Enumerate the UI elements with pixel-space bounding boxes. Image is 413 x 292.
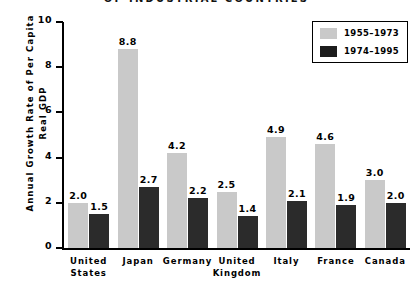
bar-value-label: 2.5 bbox=[217, 179, 235, 190]
bar-group: 2.01.5 bbox=[68, 22, 109, 248]
y-tick-6: 6 bbox=[56, 111, 63, 113]
legend-entry-1: 1974–1995 bbox=[320, 45, 399, 57]
x-category-label-line: States bbox=[58, 267, 119, 279]
bar: 2.5 bbox=[217, 192, 237, 249]
bar: 4.9 bbox=[266, 137, 286, 248]
y-tick-2: 2 bbox=[56, 202, 63, 204]
bar-value-label: 1.4 bbox=[238, 203, 256, 214]
legend-swatch-1974-1995 bbox=[320, 46, 337, 57]
x-axis-line bbox=[62, 248, 410, 250]
legend-label-1955-1973: 1955–1973 bbox=[344, 28, 399, 38]
legend-entry-0: 1955–1973 bbox=[320, 27, 399, 39]
bar: 4.6 bbox=[315, 144, 335, 248]
legend-swatch-1955-1973 bbox=[320, 28, 337, 39]
legend: 1955–1973 1974–1995 bbox=[312, 21, 408, 63]
bar-value-label: 1.9 bbox=[337, 192, 355, 203]
y-tick-label-0: 0 bbox=[45, 240, 52, 251]
chart-title: OF INDUSTRIAL COUNTRIES bbox=[0, 0, 413, 4]
bar-value-label: 2.0 bbox=[69, 190, 87, 201]
bar: 8.8 bbox=[118, 49, 138, 248]
bar-value-label: 2.7 bbox=[140, 174, 158, 185]
y-tick-4: 4 bbox=[56, 157, 63, 159]
bar: 1.9 bbox=[336, 205, 356, 248]
bar-value-label: 3.0 bbox=[366, 167, 384, 178]
y-tick-label-2: 2 bbox=[45, 195, 52, 206]
y-axis-title-line-1: Annual Growth Rate of Per Capita bbox=[24, 0, 37, 228]
x-category-label-line: Canada bbox=[355, 255, 413, 267]
bar-value-label: 4.2 bbox=[168, 140, 186, 151]
x-category-label-line: Kingdom bbox=[206, 267, 267, 279]
bar-group: 2.51.4 bbox=[217, 22, 258, 248]
bar-value-label: 8.8 bbox=[119, 36, 137, 47]
bar: 1.4 bbox=[238, 216, 258, 248]
bar-value-label: 4.6 bbox=[316, 131, 334, 142]
y-tick-label-10: 10 bbox=[38, 14, 52, 25]
bar: 4.2 bbox=[167, 153, 187, 248]
y-tick-label-8: 8 bbox=[45, 59, 52, 70]
y-tick-label-6: 6 bbox=[45, 104, 52, 115]
bar-value-label: 2.2 bbox=[189, 185, 207, 196]
y-tick-0: 0 bbox=[56, 247, 63, 249]
bar-value-label: 1.5 bbox=[90, 201, 108, 212]
bar: 3.0 bbox=[365, 180, 385, 248]
bar-value-label: 2.0 bbox=[387, 190, 405, 201]
bar: 2.2 bbox=[188, 198, 208, 248]
bar-value-label: 2.1 bbox=[288, 188, 306, 199]
bar-value-label: 4.9 bbox=[267, 124, 285, 135]
bar-group: 4.92.1 bbox=[266, 22, 307, 248]
bar: 2.1 bbox=[287, 201, 307, 248]
bar: 1.5 bbox=[89, 214, 109, 248]
y-tick-10: 10 bbox=[56, 21, 63, 23]
bar-group: 8.82.7 bbox=[118, 22, 159, 248]
bar-group: 4.22.2 bbox=[167, 22, 208, 248]
bar: 2.0 bbox=[68, 203, 88, 248]
legend-label-1974-1995: 1974–1995 bbox=[344, 46, 399, 56]
bar: 2.7 bbox=[139, 187, 159, 248]
y-tick-8: 8 bbox=[56, 66, 63, 68]
x-category-label: Canada bbox=[355, 255, 413, 267]
x-axis-category-labels: UnitedStatesJapanGermanyUnitedKingdomIta… bbox=[64, 255, 410, 291]
bar: 2.0 bbox=[386, 203, 406, 248]
y-tick-label-4: 4 bbox=[45, 150, 52, 161]
